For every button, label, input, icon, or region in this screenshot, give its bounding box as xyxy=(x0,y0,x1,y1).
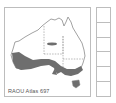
grid-cell xyxy=(97,82,110,96)
distribution-area-south xyxy=(12,52,83,76)
distribution-patch-central xyxy=(47,43,57,46)
legend-grid xyxy=(96,7,111,97)
grid-cell xyxy=(97,52,110,67)
state-borders xyxy=(44,26,83,74)
tasmania-outline xyxy=(72,80,80,88)
grid-cell xyxy=(97,38,110,53)
grid-cell xyxy=(97,23,110,38)
grid-cell xyxy=(97,8,110,23)
map-caption: RAOU Atlas 697 xyxy=(8,88,49,94)
grid-cell xyxy=(97,67,110,82)
australia-map-graphic xyxy=(5,8,92,98)
distribution-map: RAOU Atlas 697 xyxy=(4,7,91,97)
